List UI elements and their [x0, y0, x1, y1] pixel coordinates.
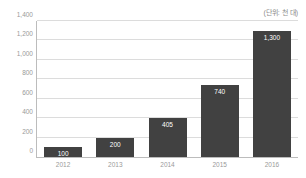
bar-value-label: 740	[214, 88, 225, 95]
bar-value-label: 100	[58, 150, 69, 157]
x-axis-tick-label: 2015	[212, 161, 226, 168]
y-axis-tick-label: 1,400	[17, 11, 33, 18]
bar[interactable]: 100	[44, 147, 82, 157]
bar[interactable]: 740	[201, 85, 239, 157]
x-axis-tick-label: 2013	[108, 161, 122, 168]
y-axis-tick-label: 800	[22, 69, 33, 76]
bar-chart: (단위: 천 대) 02004006008001,0001,2001,400 1…	[0, 0, 306, 178]
bar-slot: 1,3002016	[246, 21, 298, 157]
plot-area: 02004006008001,0001,2001,400 10020122002…	[36, 21, 298, 158]
bar-slot: 2002013	[89, 21, 141, 157]
bar-slot: 1002012	[37, 21, 89, 157]
y-axis-tick-label: 0	[29, 147, 33, 154]
bar[interactable]: 1,300	[253, 31, 291, 157]
bar-series: 10020122002013405201474020151,3002016	[37, 21, 298, 157]
y-axis-tick-label: 200	[22, 127, 33, 134]
bar-value-label: 405	[162, 121, 173, 128]
y-axis-tick-label: 1,200	[17, 30, 33, 37]
bar-slot: 4052014	[141, 21, 193, 157]
y-axis-tick-label: 400	[22, 108, 33, 115]
y-axis-tick-label: 1,000	[17, 49, 33, 56]
y-axis-tick-label: 600	[22, 88, 33, 95]
unit-annotation: (단위: 천 대)	[264, 7, 299, 17]
bar-value-label: 1,300	[264, 34, 280, 41]
bar-slot: 7402015	[194, 21, 246, 157]
x-axis-tick-label: 2014	[160, 161, 174, 168]
bar[interactable]: 200	[96, 138, 134, 157]
bar[interactable]: 405	[149, 118, 187, 157]
x-axis-tick-label: 2016	[265, 161, 279, 168]
x-axis-tick-label: 2012	[56, 161, 70, 168]
bar-value-label: 200	[110, 141, 121, 148]
